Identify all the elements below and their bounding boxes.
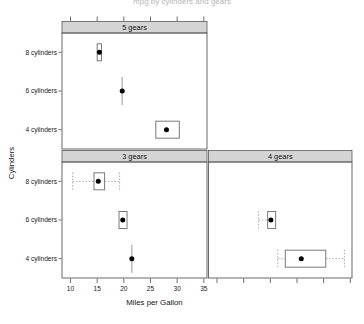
x-tick-label: 10 <box>67 285 75 292</box>
top-axis-ticks <box>71 17 204 22</box>
boxplot-box <box>156 121 179 138</box>
median-point <box>164 127 169 132</box>
x-tick-label: 35 <box>200 285 208 292</box>
y-tick-label: 6 cylinders <box>25 87 57 95</box>
y-axis-title: Cylinders <box>7 147 16 180</box>
bottom-axis-ticks-panel-3-gears: 101520253035 <box>67 279 208 292</box>
boxplot-box <box>278 250 345 268</box>
panel-4-gears: 4 gears <box>209 151 353 279</box>
median-point <box>96 179 101 184</box>
strip-label: 4 gears <box>268 152 293 161</box>
y-axis-labels: 8 cylinders6 cylinders4 cylinders8 cylin… <box>25 49 61 263</box>
y-tick-label: 8 cylinders <box>25 178 57 186</box>
x-axis-title: Miles per Gallon <box>126 298 182 307</box>
box-rect <box>285 250 326 267</box>
panel-frame <box>209 162 353 278</box>
panel-5-gears: 5 gears <box>62 22 207 150</box>
boxplot-box <box>97 44 102 61</box>
strip-label: 3 gears <box>122 152 147 161</box>
boxplot-box <box>120 77 125 105</box>
x-tick-label: 15 <box>94 285 102 292</box>
boxplot-box <box>73 172 120 190</box>
boxplot-box <box>119 212 127 229</box>
strip-label: 5 gears <box>122 23 147 32</box>
y-tick-label: 4 cylinders <box>25 126 57 134</box>
y-tick-label: 6 cylinders <box>25 216 57 224</box>
x-tick-label: 30 <box>173 285 181 292</box>
median-point <box>129 256 134 261</box>
chart-canvas: 5 gears3 gears1015202530354 gears8 cylin… <box>0 0 364 324</box>
boxplot-box <box>259 211 276 229</box>
panel-3-gears: 3 gears <box>62 151 207 279</box>
trellis-boxplot-chart: 5 gears3 gears1015202530354 gears8 cylin… <box>0 0 364 324</box>
median-point <box>299 256 304 261</box>
y-tick-label: 4 cylinders <box>25 255 57 263</box>
median-point <box>268 218 273 223</box>
chart-title: mpg by cylinders and gears <box>133 0 231 6</box>
x-tick-label: 20 <box>120 285 128 292</box>
panel-frame <box>62 33 207 149</box>
median-point <box>97 50 102 55</box>
median-point <box>120 89 125 94</box>
x-tick-label: 25 <box>147 285 155 292</box>
boxplot-box <box>129 245 134 273</box>
bottom-axis-ticks-panel-4-gears <box>217 279 350 284</box>
median-point <box>120 218 125 223</box>
panel-frame <box>62 162 207 278</box>
y-tick-label: 8 cylinders <box>25 49 57 57</box>
